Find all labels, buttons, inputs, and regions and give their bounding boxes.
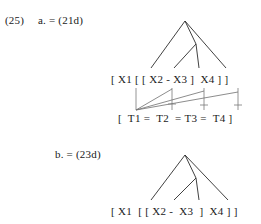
assoc-line-1 — [136, 89, 172, 110]
example-number: (25) — [5, 14, 24, 26]
tree-a-spine — [185, 21, 196, 44]
tree-a-branch-x2 — [174, 44, 196, 68]
tree-b-spine — [185, 155, 196, 178]
bracket-string-b: [ X1 [ [ X2 - X3 ] X4 ] ] — [111, 205, 238, 217]
association-lines-a — [136, 88, 242, 110]
item-label-b: b. = (23d) — [55, 148, 101, 160]
item-label-a: a. = (21d) — [38, 14, 83, 26]
tree-b-branch-x1 — [151, 155, 185, 200]
tree-b — [151, 155, 228, 200]
tree-b-branch-x2 — [174, 178, 196, 200]
tree-a-branch-x3 — [196, 44, 199, 68]
tree-a — [151, 21, 226, 68]
tree-b-branch-x3 — [196, 178, 199, 200]
tree-b-branch-x4 — [185, 155, 228, 200]
tree-a-branch-x4 — [185, 21, 226, 68]
tier-string-a: [ T1 = T2 = T3 = T4 ] — [118, 112, 233, 124]
example-figure: (25) a. = (21d) b. = (23d) [ X1 [ [ X2 -… — [0, 0, 261, 224]
bracket-string-a: [ X1 [ [ X2 - X3 ] X4 ] ] — [111, 73, 228, 85]
tree-a-branch-x1 — [151, 21, 185, 68]
assoc-line-2 — [136, 91, 204, 110]
assoc-line-3 — [136, 92, 238, 110]
